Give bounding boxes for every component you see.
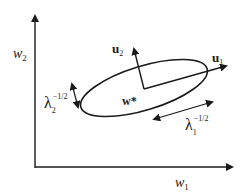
u1-arrow	[144, 66, 226, 89]
u2-arrow	[134, 49, 144, 89]
u2-label: u2	[112, 41, 123, 58]
lambda1-label: λ1−1/2	[185, 114, 209, 137]
diagram-canvas: w2 w1 u2 u1 w* λ2−1/2 λ1−1/2	[0, 0, 245, 195]
x-axis-label: w1	[175, 175, 189, 192]
u1-label: u1	[212, 50, 223, 67]
y-axis-label: w2	[13, 46, 27, 63]
w-star-label: w*	[122, 94, 137, 108]
lambda2-label: λ2−1/2	[44, 92, 68, 115]
lambda2-arrow	[73, 88, 78, 107]
